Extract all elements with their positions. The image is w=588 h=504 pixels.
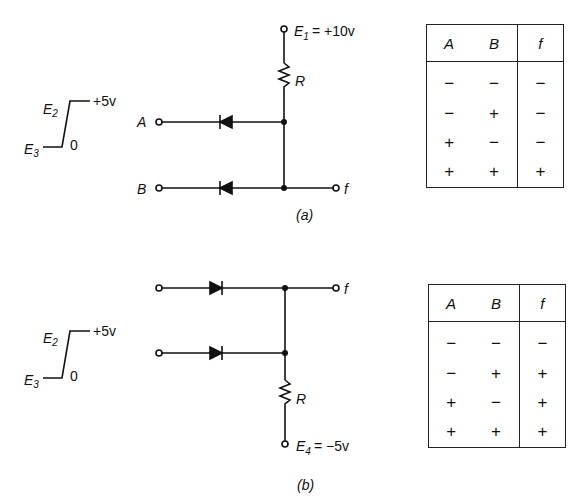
waveform-a-low-value: 0 <box>70 137 78 153</box>
table-row: − − − <box>429 322 565 360</box>
table-row: + + + <box>429 418 565 447</box>
table-row: + − − <box>427 128 563 157</box>
cell: + <box>471 158 517 187</box>
input-a-terminal[interactable] <box>156 119 162 125</box>
resistor-label-a: R <box>295 73 305 89</box>
header-f: f <box>519 285 565 322</box>
waveform-a-high-value: +5v <box>93 93 116 109</box>
input-1-terminal-b[interactable] <box>156 285 162 291</box>
cell: − <box>519 322 565 360</box>
cell: − <box>427 62 471 100</box>
cell: + <box>429 418 473 447</box>
diode-b1 <box>210 282 222 294</box>
resistor-a <box>279 63 289 96</box>
cell: + <box>473 359 519 388</box>
caption-b: (b) <box>297 477 314 493</box>
output-f-terminal-a[interactable] <box>333 185 339 191</box>
cell: − <box>473 388 519 417</box>
header-a: A <box>429 285 473 322</box>
waveform-a-high-label: E2 <box>43 101 58 119</box>
supply-label-a: E1= +10v <box>294 23 355 42</box>
cell: − <box>429 359 473 388</box>
waveform-b-low-value: 0 <box>70 368 78 384</box>
table-row: − − − <box>427 62 563 100</box>
cell: − <box>429 322 473 360</box>
table-row: − + + <box>429 359 565 388</box>
input-2-terminal-b[interactable] <box>156 350 162 356</box>
waveform-b-high-value: +5v <box>93 323 116 339</box>
table-row: − + − <box>427 99 563 128</box>
cell: + <box>429 388 473 417</box>
cell: + <box>517 158 563 187</box>
cell: + <box>427 158 471 187</box>
table-row: + + + <box>427 158 563 187</box>
diode-a2 <box>220 182 232 194</box>
diode-b2 <box>210 347 222 359</box>
diode-a1 <box>220 116 232 128</box>
resistor-label-b: R <box>296 391 306 407</box>
input-b-terminal[interactable] <box>156 185 162 191</box>
waveform-b-low-label: E3 <box>24 372 39 390</box>
header-b: B <box>473 285 519 322</box>
waveform-b-high-label: E2 <box>43 330 58 348</box>
cell: − <box>471 128 517 157</box>
table-row: + − + <box>429 388 565 417</box>
truth-table-b: A B f − − − − + + + − + + + <box>428 284 566 448</box>
supply-label-b: E4= −5v <box>296 438 349 457</box>
output-f-label-a: f <box>344 181 350 197</box>
waveform-a-low-label: E3 <box>24 141 39 159</box>
supply-terminal-b <box>282 441 288 447</box>
header-a: A <box>427 25 471 62</box>
cell: − <box>517 62 563 100</box>
caption-a: (a) <box>296 207 313 223</box>
resistor-b <box>280 380 290 441</box>
header-f: f <box>517 25 563 62</box>
cell: − <box>473 322 519 360</box>
cell: + <box>519 388 565 417</box>
header-b: B <box>471 25 517 62</box>
cell: − <box>517 99 563 128</box>
supply-terminal-a <box>281 26 287 32</box>
cell: − <box>427 99 471 128</box>
truth-table-a: A B f − − − − + − + − − + + <box>426 24 564 188</box>
cell: + <box>473 418 519 447</box>
cell: − <box>471 62 517 100</box>
cell: + <box>471 99 517 128</box>
cell: + <box>427 128 471 157</box>
input-a-label: A <box>136 114 146 130</box>
cell: + <box>519 359 565 388</box>
input-b-label: B <box>137 181 146 197</box>
output-f-label-b: f <box>344 281 350 297</box>
cell: + <box>519 418 565 447</box>
cell: − <box>517 128 563 157</box>
output-f-terminal-b[interactable] <box>333 285 339 291</box>
